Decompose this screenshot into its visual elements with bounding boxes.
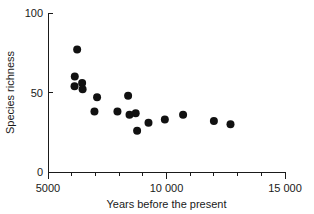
data-point — [71, 73, 79, 81]
data-point — [124, 92, 132, 100]
y-axis-title: Species richness — [4, 50, 16, 134]
x-tick-label-5000: 5000 — [36, 182, 60, 194]
data-point — [73, 46, 81, 54]
x-axis-title: Years before the present — [106, 198, 226, 210]
data-point — [93, 93, 101, 101]
data-point-group — [71, 46, 235, 135]
data-point — [71, 82, 79, 90]
data-point — [210, 117, 218, 125]
data-point — [133, 127, 141, 135]
data-point — [79, 85, 87, 93]
chart-canvas: 050100500010 00015 000Years before the p… — [0, 0, 314, 214]
data-point — [179, 111, 187, 119]
x-tick-label-10000: 10 000 — [150, 182, 184, 194]
y-tick-label-0: 0 — [37, 166, 43, 178]
y-tick-label-100: 100 — [25, 7, 43, 19]
x-tick-label-15000: 15 000 — [268, 182, 302, 194]
data-point — [161, 116, 169, 124]
scatter-plot-figure: 050100500010 00015 000Years before the p… — [0, 0, 314, 214]
data-point — [226, 120, 234, 128]
data-point — [144, 119, 152, 127]
y-tick-label-50: 50 — [31, 87, 43, 99]
data-point — [132, 109, 140, 117]
data-point — [113, 108, 121, 116]
data-point — [90, 108, 98, 116]
